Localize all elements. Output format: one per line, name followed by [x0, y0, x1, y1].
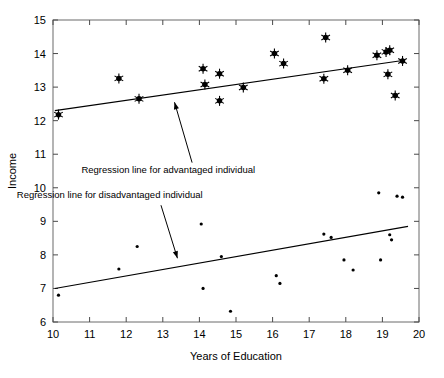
annotation-label-advantaged: Regression line for advantaged individua… — [81, 164, 255, 175]
x-tick-label: 15 — [230, 328, 242, 340]
series-advantaged-points — [54, 32, 407, 119]
x-tick-label: 18 — [340, 328, 352, 340]
x-tick-label: 13 — [157, 328, 169, 340]
x-tick-label: 12 — [120, 328, 132, 340]
regression-line-advantaged — [55, 60, 405, 110]
x-tick-label: 20 — [413, 328, 425, 340]
y-tick-label: 13 — [34, 81, 46, 93]
y-tick-label: 9 — [40, 215, 46, 227]
y-tick-label: 7 — [40, 282, 46, 294]
x-tick-label: 19 — [376, 328, 388, 340]
annotation-arrowhead-disadvantaged — [173, 251, 178, 258]
y-tick-label: 6 — [40, 316, 46, 328]
y-axis-title: Income — [6, 153, 18, 189]
y-tick-label: 8 — [40, 249, 46, 261]
y-axis-tick-labels: 6789101112131415 — [34, 14, 46, 328]
y-tick-label: 14 — [34, 48, 46, 60]
x-tick-label: 10 — [47, 328, 59, 340]
y-tick-label: 15 — [34, 14, 46, 26]
x-tick-label: 16 — [266, 328, 278, 340]
series-disadvantaged-points — [57, 191, 404, 313]
y-tick-label: 11 — [35, 148, 46, 160]
annotation-arrow-advantaged — [175, 102, 193, 162]
y-tick-label: 12 — [34, 115, 46, 127]
x-tick-label: 14 — [193, 328, 205, 340]
plot-canvas: 1011121314151617181920 6789101112131415 … — [0, 0, 444, 378]
scatter-plot-figure: 1011121314151617181920 6789101112131415 … — [0, 0, 444, 378]
annotation-arrowhead-advantaged — [174, 102, 179, 109]
x-tick-label: 11 — [84, 328, 95, 340]
x-axis-tick-labels: 1011121314151617181920 — [47, 328, 425, 340]
annotation-label-disadvantaged: Regression line for disadvantaged indivi… — [17, 189, 203, 200]
annotation-arrow-disadvantaged — [161, 205, 177, 258]
x-axis-title: Years of Education — [190, 350, 282, 362]
regression-line-disadvantaged — [55, 226, 408, 288]
x-tick-label: 17 — [303, 328, 315, 340]
